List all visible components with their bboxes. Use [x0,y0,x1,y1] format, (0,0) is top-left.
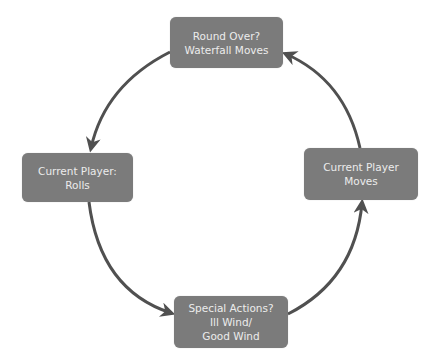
node-special-actions: Special Actions? Ill Wind/ Good Wind [174,296,288,348]
node-current-player-rolls-line-1: Current Player: [38,164,117,178]
node-special-actions-line-2: Ill Wind/ [210,315,252,329]
node-current-player-rolls: Current Player: Rolls [22,153,133,202]
arrow-right-to-top [286,54,360,148]
node-round-over: Round Over? Waterfall Moves [170,17,283,68]
node-special-actions-line-1: Special Actions? [188,301,273,315]
node-round-over-line-1: Round Over? [193,29,260,43]
node-current-player-moves-line-2: Moves [344,174,378,188]
node-current-player-moves-line-1: Current Player [323,160,398,174]
node-round-over-line-2: Waterfall Moves [185,43,269,57]
node-current-player-moves: Current Player Moves [304,148,418,200]
node-special-actions-line-3: Good Wind [202,329,259,343]
arrow-top-to-left [91,52,170,148]
node-current-player-rolls-line-2: Rolls [65,178,90,192]
arrow-left-to-bottom [89,202,171,313]
arrow-bottom-to-right [288,203,362,314]
